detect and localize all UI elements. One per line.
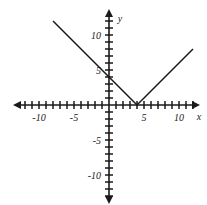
x-axis-label: x — [196, 111, 202, 122]
function-curve-group — [53, 21, 193, 105]
graph-canvas: -10-5510 105-5-10 x y — [0, 0, 207, 205]
y-axis-top-arrowhead — [105, 9, 113, 17]
y-tick-label: -5 — [93, 135, 101, 146]
y-axis-bottom-arrowhead — [105, 196, 113, 204]
x-tick-label: -10 — [32, 112, 45, 123]
y-tick-label: 10 — [91, 30, 101, 41]
y-tick-label: -10 — [88, 170, 101, 181]
y-axis-group — [105, 9, 113, 204]
x-tick-label: 5 — [142, 112, 147, 123]
y-axis-label: y — [117, 13, 123, 24]
x-tick-label: -5 — [70, 112, 78, 123]
absolute-value-curve — [53, 21, 193, 105]
x-axis-left-arrowhead — [13, 101, 21, 109]
x-tick-label: 10 — [174, 112, 184, 123]
y-tick-label: 5 — [96, 65, 101, 76]
x-axis-group — [13, 101, 200, 109]
coordinate-plane-graph: -10-5510 105-5-10 x y — [0, 0, 207, 205]
x-axis-tick-labels: -10-5510 — [32, 112, 184, 123]
